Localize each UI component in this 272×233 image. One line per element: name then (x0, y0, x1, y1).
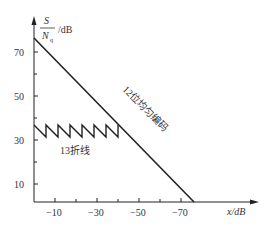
x-tick-m10: −10 (46, 207, 62, 218)
ylabel-sub: q (50, 37, 53, 43)
y-tick-70: 70 (14, 47, 24, 58)
x-tick-m70: −70 (172, 207, 188, 218)
y-axis-arrow (32, 16, 37, 25)
series-13-segment (34, 125, 118, 137)
ylabel-num: S (44, 15, 49, 26)
x-tick-m50: −50 (130, 207, 146, 218)
x-axis-label: x/dB (226, 206, 245, 217)
y-tick-30: 30 (14, 135, 24, 146)
ylabel-den: N (41, 30, 50, 41)
x-axis-arrow (250, 200, 259, 205)
y-tick-10: 10 (14, 179, 24, 190)
annotation-uniform: 12位均匀编码 (121, 83, 172, 134)
annotation-13-segment: 13折线 (60, 144, 90, 156)
chart: S N q /dB 70 50 30 10 −10 −30 −50 −70 x/… (0, 0, 272, 233)
x-tick-m30: −30 (88, 207, 104, 218)
series-uniform-12bit (34, 38, 194, 202)
ylabel-unit: /dB (58, 24, 73, 35)
y-tick-50: 50 (14, 91, 24, 102)
